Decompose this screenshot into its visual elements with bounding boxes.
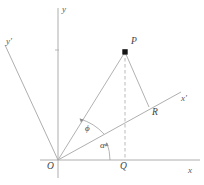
diagram-canvas	[0, 0, 204, 185]
segment-pr	[125, 52, 149, 107]
y-axis-label: y	[62, 5, 66, 14]
point-p-label: P	[131, 37, 137, 47]
y-prime-axis-label: y'	[6, 37, 12, 46]
point-o-label: O	[47, 162, 54, 172]
point-r-label: R	[152, 108, 158, 118]
x-prime-axis-label: x'	[181, 94, 187, 103]
angle-alpha-label: α	[100, 141, 105, 150]
point-q-label: Q	[120, 162, 127, 172]
x-prime-axis-line	[58, 92, 181, 160]
angle-phi-label: ϕ	[85, 124, 90, 133]
y-prime-axis-line	[5, 45, 58, 160]
angle-arc-phi	[80, 119, 104, 134]
segment-op	[58, 52, 125, 160]
point-p-marker	[122, 49, 127, 54]
geometry-figure: x y x' y' O P Q R ϕ α	[0, 0, 204, 185]
x-axis-label: x	[188, 166, 192, 175]
